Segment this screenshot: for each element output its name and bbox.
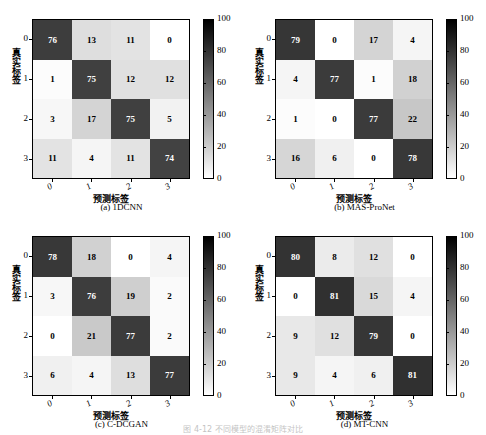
y-tick-mark [29,39,32,40]
y-tick-label: 3 [259,153,271,163]
x-tick-mark [91,179,92,182]
colorbar-tick-label: 80 [460,45,469,55]
colorbar-tick-label: 20 [217,358,226,368]
y-tick-mark [29,256,32,257]
x-tick-mark [295,396,296,399]
y-tick-label: 3 [16,370,28,380]
matrix-cell: 3 [33,277,72,317]
matrix-cell: 6 [315,139,354,179]
colorbar-tick-mark [203,332,206,333]
x-tick-mark [295,179,296,182]
matrix-cell: 6 [354,356,393,396]
matrix-cell: 12 [354,237,393,277]
matrix-cell: 12 [150,60,189,100]
colorbar-tick-mark [446,332,449,333]
x-tick-label: 0 [45,398,54,409]
matrix-cell: 0 [150,20,189,60]
x-tick-label: 2 [124,398,133,409]
colorbar-tick-label: 100 [460,230,474,240]
colorbar [203,19,214,179]
x-tick-label: 1 [327,181,336,192]
colorbar [446,236,457,396]
colorbar [446,19,457,179]
matrix-cell: 9 [276,316,315,356]
matrix-cell: 8 [315,237,354,277]
matrix-cell: 11 [111,20,150,60]
matrix-cell: 17 [72,99,111,139]
x-tick-label: 3 [163,398,172,409]
matrix-cell: 4 [72,139,111,179]
x-tick-mark [334,396,335,399]
x-tick-label: 0 [288,398,297,409]
colorbar-tick-mark [446,115,449,116]
matrix-cell: 6 [33,356,72,396]
colorbar-tick-mark [203,51,206,52]
y-tick-label: 1 [16,73,28,83]
x-tick-label: 3 [406,181,415,192]
x-tick-mark [52,396,53,399]
matrix-cell: 4 [72,356,111,396]
matrix-cell: 79 [354,316,393,356]
matrix-cell: 11 [111,139,150,179]
matrix-cell: 81 [315,277,354,317]
matrix-cell: 77 [354,99,393,139]
x-tick-mark [170,396,171,399]
colorbar-tick-label: 80 [217,262,226,272]
colorbar-tick-label: 0 [217,173,222,183]
matrix-cell: 9 [276,356,315,396]
subplot-caption: (a) 1DCNN [0,202,243,212]
x-tick-label: 2 [367,181,376,192]
matrix-cell: 78 [393,139,432,179]
subplot-d: 真实标签8081200811549127909468101230123预测标签(… [243,217,486,432]
colorbar-tick-mark [203,300,206,301]
x-tick-label: 2 [124,181,133,192]
matrix-cell: 1 [354,60,393,100]
y-tick-mark [29,119,32,120]
matrix-cell: 5 [150,99,189,139]
matrix-cell: 0 [111,237,150,277]
y-tick-mark [272,119,275,120]
colorbar-tick-mark [446,268,449,269]
confusion-matrix-figure: 真实标签76131101751212317755114117401230123预… [0,0,486,435]
colorbar-tick-mark [203,115,206,116]
y-tick-mark [29,296,32,297]
matrix-cell: 4 [150,237,189,277]
x-tick-label: 0 [288,181,297,192]
x-tick-label: 2 [367,398,376,409]
x-tick-mark [52,179,53,182]
confusion-matrix-grid: 790174477118107722166078 [275,19,433,179]
y-tick-mark [272,159,275,160]
matrix-cell: 4 [276,60,315,100]
matrix-cell: 1 [276,99,315,139]
colorbar-tick-label: 60 [217,77,226,87]
y-tick-label: 2 [259,330,271,340]
colorbar-tick-label: 80 [217,45,226,55]
y-tick-label: 3 [16,153,28,163]
colorbar-tick-mark [446,364,449,365]
colorbar-tick-label: 40 [217,326,226,336]
y-tick-label: 0 [259,33,271,43]
y-tick-mark [272,39,275,40]
y-tick-label: 1 [259,73,271,83]
y-tick-label: 3 [259,370,271,380]
matrix-cell: 3 [33,99,72,139]
colorbar-tick-label: 100 [460,13,474,23]
matrix-cell: 13 [72,20,111,60]
colorbar-tick-label: 0 [460,390,465,400]
y-tick-mark [272,296,275,297]
colorbar-tick-label: 80 [460,262,469,272]
colorbar-tick-label: 60 [460,294,469,304]
subplot-b: 真实标签79017447711810772216607801230123预测标签… [243,0,486,215]
matrix-cell: 4 [393,20,432,60]
matrix-cell: 21 [72,316,111,356]
matrix-cell: 75 [72,60,111,100]
y-tick-label: 0 [259,250,271,260]
matrix-cell: 76 [72,277,111,317]
x-tick-label: 0 [45,181,54,192]
x-tick-mark [413,396,414,399]
matrix-cell: 74 [150,139,189,179]
colorbar-tick-label: 60 [217,294,226,304]
x-tick-mark [131,179,132,182]
colorbar-tick-label: 100 [217,230,231,240]
colorbar-tick-mark [446,300,449,301]
